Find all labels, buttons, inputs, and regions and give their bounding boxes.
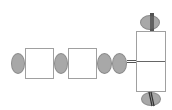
overlay-lines: [0, 0, 172, 110]
